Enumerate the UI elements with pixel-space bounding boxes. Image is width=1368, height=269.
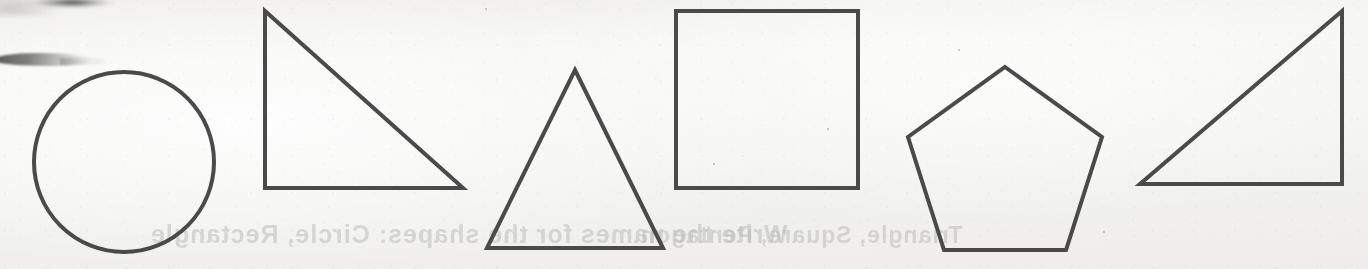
shape-pentagon — [908, 67, 1102, 250]
shape-equilateral-triangle — [487, 70, 663, 248]
shape-square — [676, 11, 858, 188]
shape-right-triangle-right — [1140, 11, 1342, 184]
geometric-shapes-layer — [0, 0, 1368, 269]
shape-circle — [34, 72, 214, 252]
shape-right-triangle-left — [265, 11, 463, 188]
scanned-worksheet-image: Write the names for the shapes: Circle, … — [0, 0, 1368, 269]
